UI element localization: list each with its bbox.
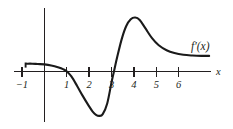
- function-graph: −1 1 2 3 4 5 6 x f′(x): [0, 0, 233, 129]
- derivative-curve: [27, 18, 210, 116]
- x-axis-label: x: [215, 66, 221, 77]
- curve-label: f′(x): [191, 40, 210, 53]
- x-tick-label-6: 6: [176, 79, 182, 90]
- x-tick-label-1: 1: [64, 79, 69, 90]
- x-tick-label-5: 5: [154, 79, 159, 90]
- x-tick-label-minus1: −1: [16, 79, 28, 90]
- x-tick-label-2: 2: [86, 79, 92, 90]
- figure-container: −1 1 2 3 4 5 6 x f′(x): [0, 0, 233, 129]
- x-tick-label-4: 4: [131, 79, 137, 90]
